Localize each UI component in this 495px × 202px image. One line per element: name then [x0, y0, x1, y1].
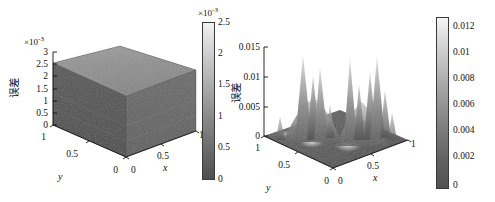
right-z-axis-label: 误差: [231, 73, 242, 113]
right-ytick-0: 0: [297, 177, 329, 187]
left-ztick-2: 2: [20, 72, 48, 82]
right-x-axis-label: x: [373, 173, 377, 183]
right-xtick-0p5: 0.5: [367, 162, 379, 172]
right-ztick-0p015: 0.015: [226, 43, 260, 53]
left-ztick-0: 0: [20, 121, 48, 131]
right-xtick-1: 1: [411, 140, 416, 150]
right-cbar-tick-0: 0: [453, 181, 458, 191]
right-surface-mesh: [264, 55, 408, 168]
left-ztick-1p5: 1.5: [20, 85, 48, 95]
left-colorbar[interactable]: [202, 22, 215, 180]
right-ztick-0: 0: [226, 132, 260, 142]
left-xtick-0p5: 0.5: [157, 152, 169, 162]
left-ytick-1: 1: [18, 133, 46, 143]
left-ztick-0p5: 0.5: [20, 109, 48, 119]
left-cbar-tick-1: 1: [218, 112, 223, 122]
left-surface-mesh: [53, 46, 196, 157]
left-cbar-tick-2: 2: [218, 49, 223, 59]
left-plot-panel: ×10-3 3 2.5 2 1.5 1 0.5 0 1 0.5 0 0 0.5 …: [0, 0, 248, 202]
right-cbar-tick-0p01: 0.01: [453, 48, 470, 58]
left-z-exponent: ×10-3: [24, 36, 44, 47]
right-ytick-1: 1: [228, 144, 260, 154]
right-cbar-tick-0p002: 0.002: [453, 152, 474, 162]
right-xtick-0: 0: [338, 177, 343, 187]
figure-canvas: ×10-3 3 2.5 2 1.5 1 0.5 0 1 0.5 0 0 0.5 …: [0, 0, 495, 202]
right-z-ticks: [264, 47, 268, 136]
left-z-axis-label: 误差: [9, 68, 20, 108]
right-ytick-0p5: 0.5: [258, 161, 290, 171]
left-xtick-0: 0: [131, 166, 136, 176]
left-y-axis-label: y: [58, 172, 62, 182]
left-ytick-0: 0: [90, 166, 118, 176]
left-ztick-2p5: 2.5: [20, 60, 48, 70]
right-cbar-tick-0p012: 0.012: [453, 22, 474, 32]
right-cbar-tick-0p006: 0.006: [453, 100, 474, 110]
left-ytick-0p5: 0.5: [50, 150, 78, 160]
right-plot-panel: 0.015 0.01 0.005 0 1 0.5 0 0 0.5 1 y x 误…: [240, 0, 495, 202]
right-colorbar[interactable]: [436, 17, 449, 189]
left-ztick-1: 1: [20, 97, 48, 107]
left-cbar-tick-0: 0: [218, 175, 223, 185]
left-x-axis-label: x: [163, 163, 167, 173]
left-cbar-tick-2p5: 2.5: [218, 18, 230, 28]
left-colorbar-multiplier: ×10-3: [198, 7, 218, 18]
right-cbar-tick-0p004: 0.004: [453, 126, 474, 136]
right-y-axis-label: y: [266, 183, 270, 193]
left-ztick-3: 3: [20, 48, 48, 58]
right-cbar-tick-0p008: 0.008: [453, 74, 474, 84]
